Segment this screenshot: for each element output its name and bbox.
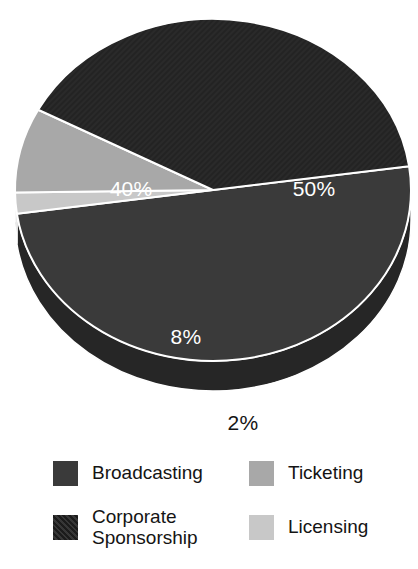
legend-label-corporate-sponsorship: Corporate Sponsorship — [92, 506, 198, 549]
swatch-licensing-icon — [249, 515, 274, 540]
legend-label-ticketing: Ticketing — [288, 462, 363, 483]
legend-label-broadcasting: Broadcasting — [92, 462, 203, 483]
chart-legend: Broadcasting Ticketing Corporate Sponsor… — [0, 448, 418, 569]
legend-item-ticketing[interactable]: Ticketing — [249, 448, 418, 498]
legend-grid: Broadcasting Ticketing Corporate Sponsor… — [0, 448, 418, 556]
legend-item-licensing[interactable]: Licensing — [249, 498, 418, 556]
pie-chart-svg: 50%2%8%40% — [0, 0, 418, 445]
slice-value-label-broadcasting: 50% — [293, 177, 336, 200]
swatch-broadcasting-icon — [53, 461, 78, 486]
slice-value-label-ticketing: 8% — [171, 325, 202, 348]
pie-chart-figure: 50%2%8%40% Broadcasting Ticketing Corpor… — [0, 0, 418, 569]
swatch-ticketing-icon — [249, 461, 274, 486]
legend-item-broadcasting[interactable]: Broadcasting — [53, 448, 249, 498]
pie-top-surface — [15, 19, 411, 361]
legend-label-licensing: Licensing — [288, 516, 368, 537]
slice-value-label-corporate-sponsorship: 40% — [110, 177, 153, 200]
swatch-corporate-sponsorship-icon — [53, 515, 78, 540]
legend-item-corporate-sponsorship[interactable]: Corporate Sponsorship — [53, 498, 249, 556]
pie-chart-plot-area: 50%2%8%40% — [0, 0, 418, 445]
slice-value-label-licensing: 2% — [228, 411, 259, 434]
